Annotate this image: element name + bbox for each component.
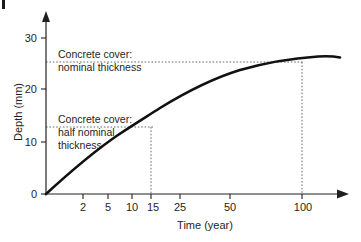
y-tick-label-0: 0 xyxy=(31,188,37,200)
x-tick-label-2: 2 xyxy=(80,201,86,213)
annotation-half-nominal-line1: Concrete cover: xyxy=(58,113,132,125)
annotation-nominal-line1: Concrete cover: xyxy=(58,48,132,60)
x-tick-label-25: 25 xyxy=(174,201,186,213)
x-tick-label-10: 10 xyxy=(126,201,138,213)
y-axis-arrow-icon xyxy=(42,11,50,22)
carbonation-depth-chart: 30 20 10 0 2 5 10 15 25 50 100 Time (yea… xyxy=(0,0,361,242)
x-tick-label-100: 100 xyxy=(294,201,312,213)
annotation-nominal-line2: nominal thickness xyxy=(58,61,141,73)
y-tick-label-20: 20 xyxy=(25,83,37,95)
x-tick-label-50: 50 xyxy=(224,201,236,213)
x-axis-title: Time (year) xyxy=(177,219,233,231)
x-tick-label-5: 5 xyxy=(105,201,111,213)
annotation-half-nominal-line2: half nominal xyxy=(58,126,115,138)
y-tick-label-30: 30 xyxy=(25,32,37,44)
annotation-half-nominal-line3: thickness xyxy=(58,139,102,151)
y-axis-title: Depth (mm) xyxy=(12,83,24,141)
x-tick-label-15: 15 xyxy=(147,201,159,213)
y-tick-label-10: 10 xyxy=(25,136,37,148)
chart-figure: 30 20 10 0 2 5 10 15 25 50 100 Time (yea… xyxy=(0,0,361,242)
x-axis-arrow-icon xyxy=(337,190,349,199)
